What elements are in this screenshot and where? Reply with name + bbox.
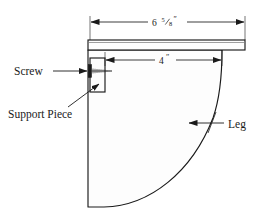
callout-support-piece: Support Piece	[8, 84, 99, 121]
callout-screw-label: Screw	[14, 65, 43, 77]
leg-panel	[88, 50, 222, 207]
dimension-overall-fraction-denominator: 8	[169, 20, 172, 27]
callout-leg-label: Leg	[228, 118, 246, 131]
tabletop	[88, 40, 245, 50]
dimension-overall-fraction-numerator: 5	[162, 16, 165, 23]
callout-support-piece-label: Support Piece	[8, 108, 72, 121]
dimension-overall-value: 6	[152, 18, 157, 28]
dimension-leg-offset-unit: ″	[166, 53, 169, 62]
dimension-overall-width: 6 5 8 ″	[90, 15, 245, 41]
support-piece-block	[90, 58, 105, 92]
technical-diagram: 6 5 8 ″ 4 ″ Screw Support Piece	[0, 0, 266, 224]
leg-outline	[88, 50, 222, 207]
screw-head	[88, 65, 91, 78]
support-piece-outline	[90, 58, 105, 92]
dimension-overall-unit: ″	[174, 15, 177, 24]
diagram-canvas: 6 5 8 ″ 4 ″ Screw Support Piece	[0, 0, 266, 224]
tabletop-outline	[88, 40, 245, 50]
dimension-leg-offset-value: 4	[159, 56, 164, 66]
callout-screw: Screw	[14, 65, 87, 77]
